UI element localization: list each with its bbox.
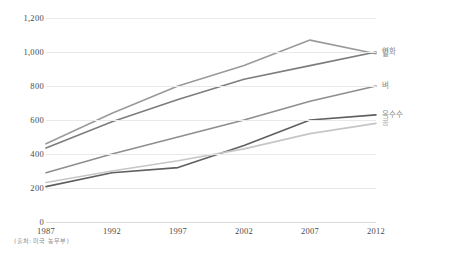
- y-tick-label: 1,200: [0, 13, 44, 23]
- y-tick-label: 800: [0, 81, 44, 91]
- x-tick-label: 2012: [367, 226, 385, 236]
- y-tick-label: 600: [0, 115, 44, 125]
- legend-item[interactable]: 연화: [382, 48, 396, 57]
- series-line: [46, 115, 376, 187]
- x-tick-label: 2002: [235, 226, 253, 236]
- y-tick-label: 1,000: [0, 47, 44, 57]
- legend-item[interactable]: 콩: [382, 119, 389, 128]
- series-line: [46, 52, 376, 148]
- gridline-800: [46, 86, 376, 87]
- gridline-1000: [46, 52, 376, 53]
- x-tick-label: 1987: [37, 226, 55, 236]
- gridline-1200: [46, 18, 376, 19]
- chart-container: 02004006008001,0001,200 1987199219972002…: [0, 0, 450, 259]
- gridline-200: [46, 188, 376, 189]
- y-tick-label: 200: [0, 183, 44, 193]
- series-line: [46, 123, 376, 182]
- gridline-0: [46, 222, 376, 223]
- gridline-400: [46, 154, 376, 155]
- legend-item[interactable]: 벼: [382, 82, 389, 91]
- x-tick-label: 1997: [169, 226, 187, 236]
- source-note: (출처: 미국 농무부): [14, 236, 69, 245]
- y-tick-label: 400: [0, 149, 44, 159]
- x-tick-label: 1992: [103, 226, 121, 236]
- x-tick-label: 2007: [301, 226, 319, 236]
- gridline-600: [46, 120, 376, 121]
- series-line: [46, 86, 376, 173]
